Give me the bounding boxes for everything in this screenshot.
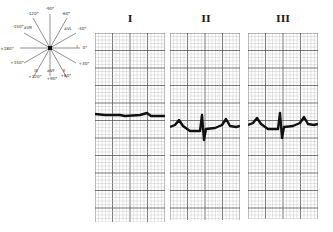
ecg-strip-lead-III	[248, 33, 318, 219]
ecg-strip-lead-II	[170, 33, 240, 220]
axis-label: -30°	[78, 26, 87, 31]
axis-label: aVR	[24, 25, 32, 30]
axis-label: ±180°	[0, 46, 14, 51]
axis-label: aVL	[64, 26, 72, 31]
axis-label: -60°	[62, 11, 71, 16]
lead-label-III: III	[263, 13, 303, 24]
axis-label: +30°	[79, 61, 90, 66]
hexaxial-svg: -90°-120°-60°-150°aVRaVL-30°±180°I0°+150…	[0, 0, 100, 90]
axis-label: I	[76, 44, 77, 49]
axis-label: +150°	[10, 60, 24, 65]
axis-label: -90°	[46, 6, 55, 11]
lead-label-I: I	[110, 13, 150, 24]
axis-label: +120°	[28, 74, 42, 79]
axis-label: III	[34, 68, 38, 73]
axis-label: -150°	[12, 24, 24, 29]
axis-label: +60°	[61, 73, 72, 78]
lead-label-II: II	[186, 13, 226, 24]
ecg-strip-lead-I	[95, 33, 165, 222]
axis-label: 0°	[83, 45, 88, 50]
axis-label: aVF	[47, 68, 55, 73]
axis-label: +90°	[47, 76, 58, 81]
hexaxial-reference-diagram: -90°-120°-60°-150°aVRaVL-30°±180°I0°+150…	[0, 0, 100, 90]
axis-label: -120°	[27, 11, 39, 16]
